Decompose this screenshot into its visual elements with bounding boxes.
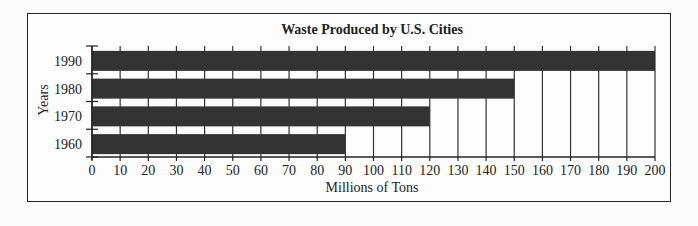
x-tick-label: 60: [254, 163, 268, 178]
y-tick-label: 1980: [54, 82, 82, 97]
y-tick-label: 1960: [54, 137, 82, 152]
bar-1990: [92, 51, 655, 71]
x-axis: 0102030405060708090100110120130140150160…: [89, 157, 666, 178]
bar-1960: [92, 134, 345, 154]
x-tick-label: 0: [89, 163, 96, 178]
x-tick-label: 200: [645, 163, 666, 178]
y-tick-label: 1970: [54, 109, 82, 124]
x-tick-label: 190: [616, 163, 637, 178]
x-tick-label: 130: [447, 163, 468, 178]
bar-1970: [92, 106, 430, 126]
x-tick-label: 150: [504, 163, 525, 178]
bar-1980: [92, 79, 514, 99]
y-axis: 1990198019701960: [54, 46, 98, 160]
chart-title: Waste Produced by U.S. Cities: [281, 22, 463, 37]
x-tick-label: 160: [532, 163, 553, 178]
x-tick-label: 20: [141, 163, 155, 178]
x-tick-label: 180: [588, 163, 609, 178]
x-tick-label: 80: [310, 163, 324, 178]
x-tick-label: 140: [476, 163, 497, 178]
x-tick-label: 120: [419, 163, 440, 178]
y-axis-label: Years: [36, 84, 51, 115]
x-tick-label: 40: [198, 163, 212, 178]
x-tick-label: 70: [282, 163, 296, 178]
x-tick-label: 30: [169, 163, 183, 178]
x-tick-label: 110: [391, 163, 411, 178]
x-tick-label: 100: [363, 163, 384, 178]
bar-chart: Waste Produced by U.S. Cities 1990198019…: [0, 0, 698, 226]
x-axis-label: Millions of Tons: [326, 180, 419, 195]
x-tick-label: 10: [113, 163, 127, 178]
x-tick-label: 170: [560, 163, 581, 178]
y-tick-label: 1990: [54, 54, 82, 69]
x-tick-label: 90: [338, 163, 352, 178]
x-tick-label: 50: [226, 163, 240, 178]
